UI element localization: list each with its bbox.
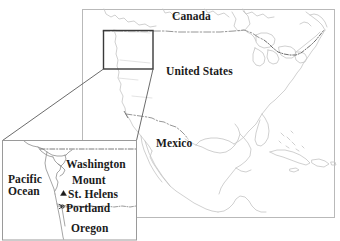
- label-united-states: United States: [166, 65, 233, 77]
- label-canada: Canada: [172, 10, 211, 22]
- map-figure: Canada United States Mexico Pacific Ocea…: [0, 0, 340, 241]
- label-pacific-ocean-line1: Pacific: [8, 173, 42, 185]
- label-portland: Portland: [66, 202, 110, 214]
- label-washington: Washington: [66, 158, 126, 170]
- label-mexico: Mexico: [156, 137, 192, 149]
- label-st-helens: St. Helens: [68, 188, 118, 200]
- label-oregon: Oregon: [71, 222, 108, 234]
- inset-map-graphics: [0, 0, 340, 241]
- label-pacific-ocean-line2: Ocean: [8, 185, 42, 197]
- label-mount: Mount: [72, 174, 106, 186]
- label-pacific-ocean: Pacific Ocean: [8, 173, 42, 198]
